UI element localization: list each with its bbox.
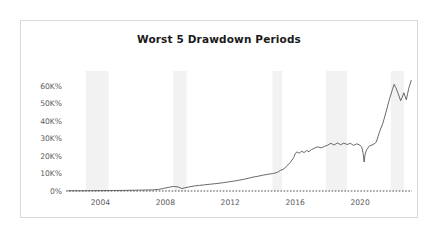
y-tick-label: 10K% xyxy=(40,169,62,178)
series-line-cumulative-return xyxy=(68,81,411,191)
drawdown-band-group xyxy=(86,71,404,191)
y-axis-tick-labels: 0%10K%20K%30K%40K%50K%60K% xyxy=(40,82,62,196)
drawdown-line-chart: 0%10K%20K%30K%40K%50K%60K% 2004200820122… xyxy=(21,21,419,219)
x-tick-label: 2008 xyxy=(156,198,175,207)
chart-card: Worst 5 Drawdown Periods 0%10K%20K%30K%4… xyxy=(20,20,418,218)
x-axis-tick-labels: 20042008201220162020 xyxy=(91,198,370,207)
series-group xyxy=(68,81,411,191)
y-tick-label: 60K% xyxy=(40,82,62,91)
x-tick-label: 2004 xyxy=(91,198,110,207)
drawdown-band-1 xyxy=(86,71,109,191)
y-tick-label: 40K% xyxy=(40,117,62,126)
chart-plot-area: 0%10K%20K%30K%40K%50K%60K% 2004200820122… xyxy=(21,21,419,219)
y-tick-label: 30K% xyxy=(40,134,62,143)
drawdown-band-4 xyxy=(326,71,347,191)
y-tick-label: 50K% xyxy=(40,99,62,108)
y-tick-label: 0% xyxy=(50,187,62,196)
x-tick-label: 2016 xyxy=(286,198,305,207)
y-tick-label: 20K% xyxy=(40,152,62,161)
x-tick-label: 2020 xyxy=(350,198,369,207)
drawdown-band-2 xyxy=(173,71,186,191)
x-tick-label: 2012 xyxy=(221,198,240,207)
